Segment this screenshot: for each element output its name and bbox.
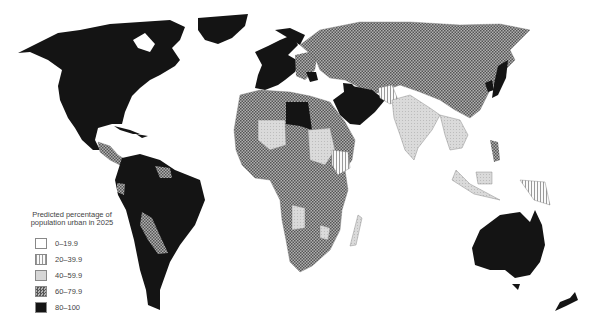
europe bbox=[255, 28, 318, 90]
swatch-solid bbox=[35, 302, 47, 313]
map-legend: Predicted percentage of population urban… bbox=[22, 211, 132, 317]
swatch-crosshatch bbox=[35, 286, 47, 297]
swatch-light bbox=[35, 270, 47, 281]
oceania bbox=[472, 210, 578, 311]
legend-item-20-39: 20–39.9 bbox=[35, 253, 132, 266]
legend-item-0-19: 0–19.9 bbox=[35, 237, 132, 250]
north-america bbox=[18, 14, 248, 150]
swatch-stripes bbox=[35, 254, 47, 265]
legend-title: Predicted percentage of population urban… bbox=[22, 211, 122, 227]
legend-item-80-100: 80–100 bbox=[35, 301, 132, 314]
legend-item-40-59: 40–59.9 bbox=[35, 269, 132, 282]
legend-item-60-79: 60–79.9 bbox=[35, 285, 132, 298]
swatch-blank bbox=[35, 238, 47, 249]
